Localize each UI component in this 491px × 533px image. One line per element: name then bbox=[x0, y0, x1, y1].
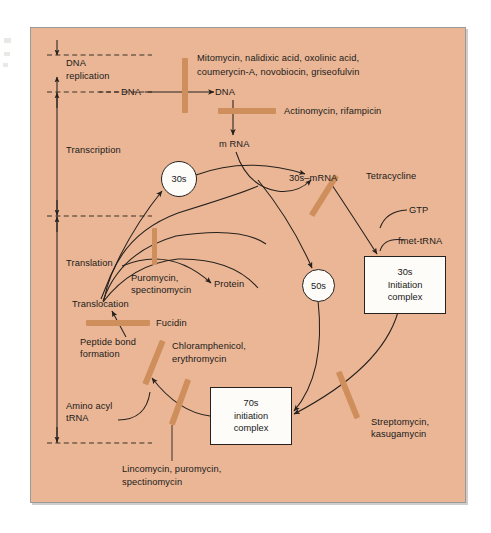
molecule-label-translocation: Translocation bbox=[72, 298, 129, 310]
node-ribosome-30s-label: 30s bbox=[172, 174, 187, 184]
figure-page: DNA replication Transcription Translatio… bbox=[0, 0, 491, 533]
inhibitor-bar-dna-replication bbox=[182, 58, 188, 113]
node-30s-initiation-complex-line1: 30s bbox=[398, 266, 413, 279]
node-30s-initiation-complex-line2: Initiation bbox=[388, 279, 423, 292]
molecule-label-gtp: GTP bbox=[409, 204, 428, 216]
inhibitor-label-streptomycin-line1: Streptomycin, bbox=[371, 416, 429, 428]
node-ribosome-50s-label: 50s bbox=[311, 281, 326, 291]
molecule-label-30s-mrna: 30s–mRNA bbox=[289, 172, 337, 184]
inhibitor-label-puromycin-line1: Puromycin, bbox=[131, 272, 179, 284]
inhibitor-label-dna-replication-line1: Mitomycin, nalidixic acid, oxolinic acid… bbox=[197, 52, 359, 64]
scan-artifact bbox=[4, 38, 11, 43]
molecule-label-dna-template: DNA bbox=[121, 86, 141, 98]
node-ribosome-30s: 30s bbox=[161, 161, 197, 197]
inhibitor-label-fucidin: Fucidin bbox=[156, 317, 187, 329]
stage-label-translation: Translation bbox=[66, 257, 113, 269]
molecule-label-mrna: m RNA bbox=[219, 138, 249, 150]
inhibitor-label-streptomycin-line2: kasugamycin bbox=[371, 428, 426, 440]
stage-label-transcription: Transcription bbox=[66, 144, 121, 156]
scan-artifact bbox=[4, 52, 10, 56]
molecule-label-fmet-trna: fmet-tRNA bbox=[398, 235, 442, 247]
molecule-label-amino-acyl-line1: Amino acyl bbox=[66, 400, 112, 412]
inhibitor-bar-puromycin-spectinomycin bbox=[152, 228, 157, 265]
inhibitor-bar-transcription bbox=[218, 108, 276, 114]
node-70s-initiation-complex-line3: complex bbox=[234, 422, 269, 435]
inhibitor-label-puromycin-line2: spectinomycin bbox=[131, 284, 191, 296]
inhibitor-label-tetracycline: Tetracycline bbox=[366, 170, 416, 182]
node-70s-initiation-complex-line1: 70s bbox=[244, 397, 259, 410]
stage-label-dna-replication-line2: replication bbox=[66, 70, 109, 82]
inhibitor-label-transcription: Actinomycin, rifampicin bbox=[284, 105, 381, 117]
inhibitor-label-lincomycin-line2: spectinomycin bbox=[122, 476, 182, 488]
node-30s-initiation-complex: 30s Initiation complex bbox=[364, 256, 446, 314]
molecule-label-protein: Protein bbox=[214, 278, 244, 290]
node-30s-initiation-complex-line3: complex bbox=[388, 291, 423, 304]
inhibitor-bar-fucidin bbox=[86, 320, 150, 326]
inhibitor-label-lincomycin-line1: Lincomycin, puromycin, bbox=[122, 463, 221, 475]
node-70s-initiation-complex-line2: initiation bbox=[234, 410, 268, 423]
molecule-label-dna-product: DNA bbox=[215, 86, 235, 98]
node-70s-initiation-complex: 70s initiation complex bbox=[210, 387, 292, 445]
scan-artifact bbox=[3, 63, 8, 67]
molecule-label-peptide-bond-line1: Peptide bond bbox=[80, 336, 136, 348]
molecule-label-amino-acyl-line2: tRNA bbox=[66, 412, 89, 424]
node-ribosome-50s: 50s bbox=[302, 269, 335, 302]
inhibitor-label-chloramphenicol-line2: erythromycin bbox=[172, 353, 226, 365]
stage-label-dna-replication-line1: DNA bbox=[66, 57, 86, 69]
molecule-label-peptide-bond-line2: formation bbox=[80, 348, 120, 360]
inhibitor-label-chloramphenicol-line1: Chloramphenicol, bbox=[172, 340, 246, 352]
inhibitor-label-dna-replication-line2: coumerycin-A, novobiocin, griseofulvin bbox=[197, 66, 359, 78]
